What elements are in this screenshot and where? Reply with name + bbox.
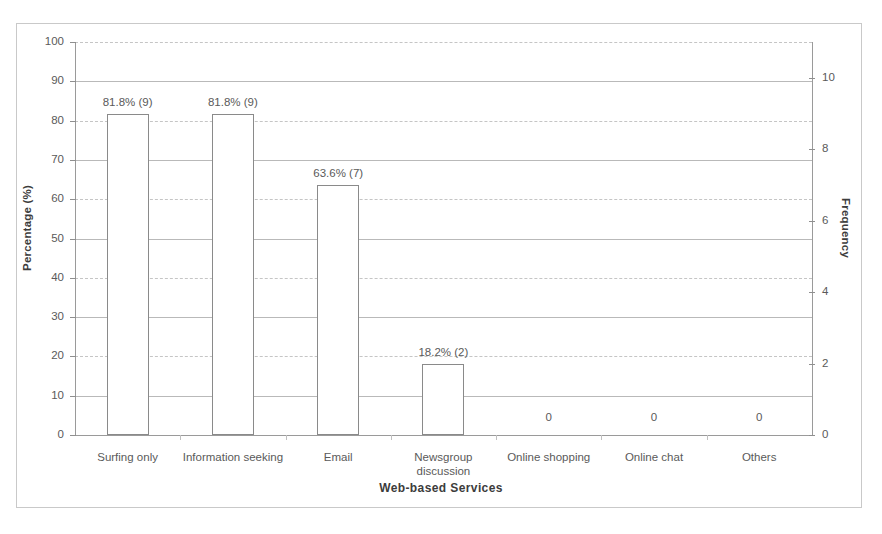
category-label-online-shopping: Online shopping [489, 450, 609, 464]
ytick-mark-40 [70, 278, 76, 279]
ytick-label-100: 100 [24, 35, 64, 47]
y2tick-label-2: 2 [822, 357, 862, 369]
y2tick-label-0: 0 [822, 428, 862, 440]
y-axis-title-right: Frequency [840, 168, 852, 288]
category-label-email: Email [278, 450, 398, 464]
ytick-mark-90 [70, 81, 76, 82]
bar-label-online-shopping: 0 [499, 411, 599, 423]
ytick-label-20: 20 [24, 349, 64, 361]
category-label-others: Others [699, 450, 819, 464]
bar-label-information-seeking: 81.8% (9) [183, 96, 283, 108]
y2tick-mark-6 [809, 221, 815, 222]
bar-label-others: 0 [709, 411, 809, 423]
bar-label-email: 63.6% (7) [288, 167, 388, 179]
y-axis-right [812, 42, 813, 436]
ytick-mark-100 [70, 42, 76, 43]
category-label-online-chat: Online chat [594, 450, 714, 464]
ytick-label-30: 30 [24, 310, 64, 322]
bar-newsgroup-discussion [422, 364, 464, 436]
bar-email [317, 185, 359, 435]
ytick-mark-30 [70, 317, 76, 318]
chart-figure: 100 90 80 70 60 50 40 30 20 10 0 0 2 4 6… [0, 0, 882, 534]
y2tick-mark-4 [809, 292, 815, 293]
xtick-mark-1 [180, 435, 181, 440]
bar-label-online-chat: 0 [604, 411, 704, 423]
y2tick-label-8: 8 [822, 142, 862, 154]
x-axis-title: Web-based Services [0, 481, 882, 495]
gridline-80 [75, 121, 812, 122]
ytick-mark-10 [70, 396, 76, 397]
category-label-information-seeking: Information seeking [173, 450, 293, 464]
ytick-mark-80 [70, 121, 76, 122]
ytick-label-10: 10 [24, 389, 64, 401]
category-label-surfing-only: Surfing only [68, 450, 188, 464]
y2tick-mark-2 [809, 364, 815, 365]
y-axis-title-left: Percentage (%) [21, 168, 33, 288]
gridline-60 [75, 199, 812, 200]
ytick-mark-60 [70, 199, 76, 200]
x-axis [75, 435, 813, 436]
gridline-30 [75, 317, 812, 318]
xtick-mark-6 [707, 435, 708, 440]
y2tick-mark-8 [809, 149, 815, 150]
ytick-mark-0 [70, 435, 76, 436]
bar-information-seeking [212, 114, 254, 435]
ytick-mark-50 [70, 239, 76, 240]
bar-surfing-only [107, 114, 149, 435]
ytick-mark-20 [70, 356, 76, 357]
ytick-label-80: 80 [24, 114, 64, 126]
gridline-50 [75, 239, 812, 240]
gridline-40 [75, 278, 812, 279]
ytick-label-70: 70 [24, 153, 64, 165]
ytick-label-90: 90 [24, 74, 64, 86]
ytick-mark-70 [70, 160, 76, 161]
category-label-newsgroup-discussion: Newsgroup discussion [383, 450, 503, 478]
y2tick-label-10: 10 [822, 71, 862, 83]
y2tick-mark-10 [809, 78, 815, 79]
gridline-90 [75, 81, 812, 82]
xtick-mark-2 [286, 435, 287, 440]
xtick-mark-4 [496, 435, 497, 440]
xtick-mark-3 [391, 435, 392, 440]
xtick-mark-5 [601, 435, 602, 440]
gridline-100 [75, 42, 812, 43]
bar-label-surfing-only: 81.8% (9) [78, 96, 178, 108]
y2tick-mark-0 [809, 435, 815, 436]
gridline-70 [75, 160, 812, 161]
ytick-label-0: 0 [24, 428, 64, 440]
bar-label-newsgroup-discussion: 18.2% (2) [393, 346, 493, 358]
